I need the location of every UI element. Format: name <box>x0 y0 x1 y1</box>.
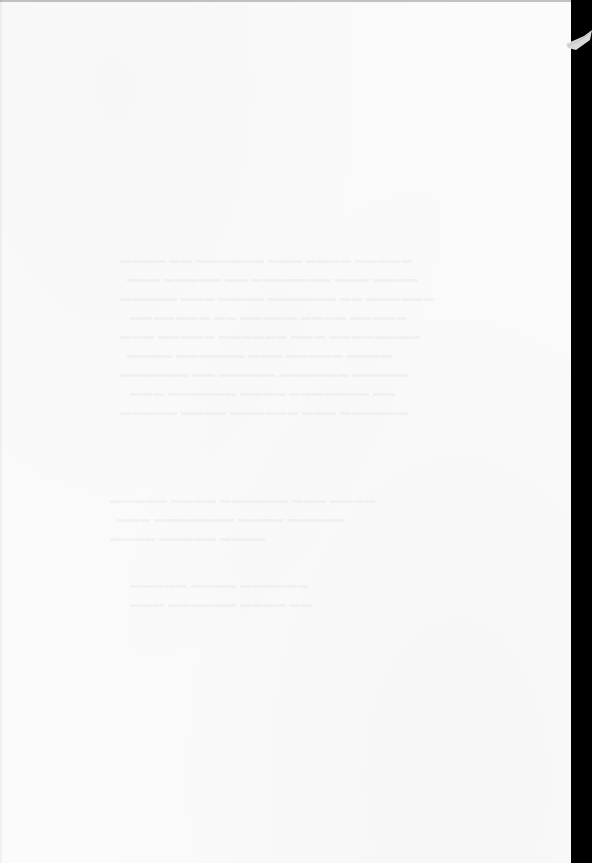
scanned-page-image: ▬▬▬▬ ▬▬ ▬▬▬▬▬▬ ▬▬▬ ▬▬▬▬ ▬▬▬▬▬ ▬▬▬ ▬▬▬▬▬ … <box>0 0 592 863</box>
show-through-text-block-2: ▬▬▬▬▬ ▬▬▬▬ ▬▬▬▬▬▬ ▬▬▬ ▬▬▬▬ ▬▬▬ ▬▬▬▬▬▬▬ ▬… <box>110 490 376 547</box>
show-through-text-block-3: ▬▬▬▬▬ ▬▬▬▬ ▬▬▬▬▬▬ ▬▬▬ ▬▬▬▬▬▬ ▬▬▬▬ ▬▬ <box>130 575 312 613</box>
paper-left-edge-shadow <box>0 0 3 863</box>
blank-paper-sheet: ▬▬▬▬ ▬▬ ▬▬▬▬▬▬ ▬▬▬ ▬▬▬▬ ▬▬▬▬▬ ▬▬▬ ▬▬▬▬▬ … <box>0 0 571 863</box>
curled-page-corner-icon <box>566 30 592 52</box>
show-through-text-block-1: ▬▬▬▬ ▬▬ ▬▬▬▬▬▬ ▬▬▬ ▬▬▬▬ ▬▬▬▬▬ ▬▬▬ ▬▬▬▬▬ … <box>120 250 435 421</box>
